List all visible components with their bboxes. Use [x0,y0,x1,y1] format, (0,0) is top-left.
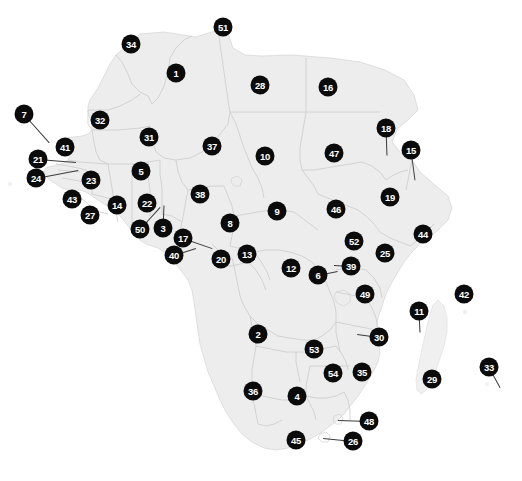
island-dot-c [8,182,12,186]
island-dot-a [463,310,467,314]
map-marker-1[interactable]: 1 [167,64,186,83]
map-marker-46[interactable]: 46 [327,200,346,219]
map-marker-26[interactable]: 26 [344,432,363,451]
map-marker-42[interactable]: 42 [455,285,474,304]
map-marker-20[interactable]: 20 [212,250,231,269]
map-marker-33[interactable]: 33 [480,358,499,377]
map-marker-16[interactable]: 16 [319,78,338,97]
map-marker-36[interactable]: 36 [244,382,263,401]
map-marker-14[interactable]: 14 [108,196,127,215]
map-marker-8[interactable]: 8 [221,214,240,233]
map-marker-6[interactable]: 6 [309,266,328,285]
map-marker-53[interactable]: 53 [305,340,324,359]
map-marker-47[interactable]: 47 [325,144,344,163]
map-marker-48[interactable]: 48 [360,412,379,431]
map-marker-50[interactable]: 50 [131,220,150,239]
map-marker-24[interactable]: 24 [27,169,46,188]
map-marker-35[interactable]: 35 [353,363,372,382]
map-marker-18[interactable]: 18 [377,119,396,138]
map-marker-40[interactable]: 40 [165,246,184,265]
map-marker-41[interactable]: 41 [56,138,75,157]
map-marker-22[interactable]: 22 [138,194,157,213]
map-marker-13[interactable]: 13 [238,245,257,264]
map-marker-45[interactable]: 45 [287,431,306,450]
map-marker-39[interactable]: 39 [342,257,361,276]
island-dot-b [485,382,489,386]
map-marker-44[interactable]: 44 [414,225,433,244]
map-marker-31[interactable]: 31 [140,128,159,147]
map-marker-28[interactable]: 28 [251,76,270,95]
map-marker-21[interactable]: 21 [29,150,48,169]
map-marker-54[interactable]: 54 [324,364,343,383]
map-marker-34[interactable]: 34 [122,35,141,54]
map-marker-27[interactable]: 27 [81,206,100,225]
map-marker-2[interactable]: 2 [249,325,268,344]
map-marker-29[interactable]: 29 [423,370,442,389]
map-marker-15[interactable]: 15 [402,141,421,160]
map-marker-49[interactable]: 49 [356,285,375,304]
map-marker-10[interactable]: 10 [256,147,275,166]
map-marker-5[interactable]: 5 [132,162,151,181]
map-marker-3[interactable]: 3 [154,219,173,238]
map-marker-43[interactable]: 43 [63,190,82,209]
map-marker-4[interactable]: 4 [288,387,307,406]
map-marker-38[interactable]: 38 [191,185,210,204]
map-marker-7[interactable]: 7 [15,105,34,124]
map-marker-11[interactable]: 11 [410,302,429,321]
map-graphic [0,0,522,481]
map-marker-19[interactable]: 19 [381,188,400,207]
map-marker-9[interactable]: 9 [268,202,287,221]
map-marker-32[interactable]: 32 [91,111,110,130]
map-marker-51[interactable]: 51 [214,18,233,37]
map-marker-25[interactable]: 25 [376,244,395,263]
map-marker-37[interactable]: 37 [203,137,222,156]
map-marker-30[interactable]: 30 [370,328,389,347]
map-marker-12[interactable]: 12 [282,259,301,278]
map-marker-52[interactable]: 52 [345,232,364,251]
africa-index-map: 3451128167323137104718154121242353819431… [0,0,522,481]
map-marker-23[interactable]: 23 [82,171,101,190]
map-marker-17[interactable]: 17 [174,229,193,248]
